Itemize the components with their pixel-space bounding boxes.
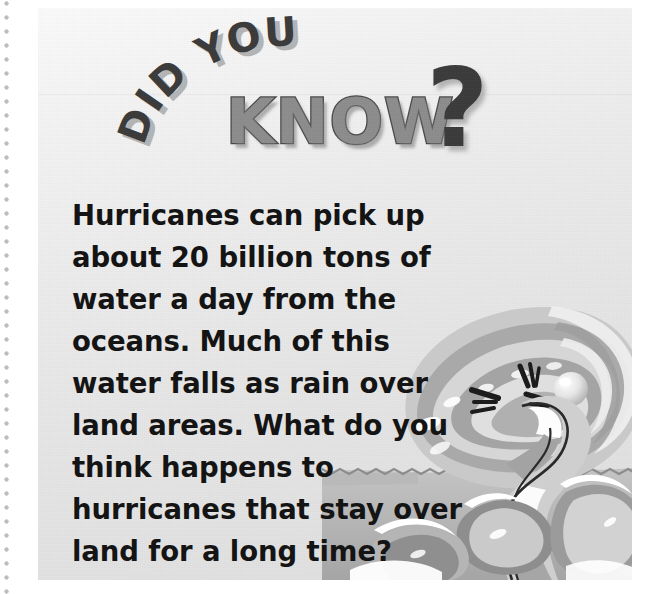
dotted-rule-icon xyxy=(3,0,10,594)
body-paragraph: Hurricanes can pick up about 20 billion … xyxy=(72,194,482,572)
page-canvas: DID YOU DID YOU KNOW ? Hurricanes can pi… xyxy=(0,0,658,594)
hurricane-eye-highlight xyxy=(559,378,571,387)
headline-know-word: KNOW xyxy=(226,90,455,153)
headline-group: DID YOU DID YOU KNOW ? xyxy=(38,38,632,178)
did-you-know-panel: DID YOU DID YOU KNOW ? Hurricanes can pi… xyxy=(38,8,632,580)
headline-question-mark: ? xyxy=(426,55,489,163)
